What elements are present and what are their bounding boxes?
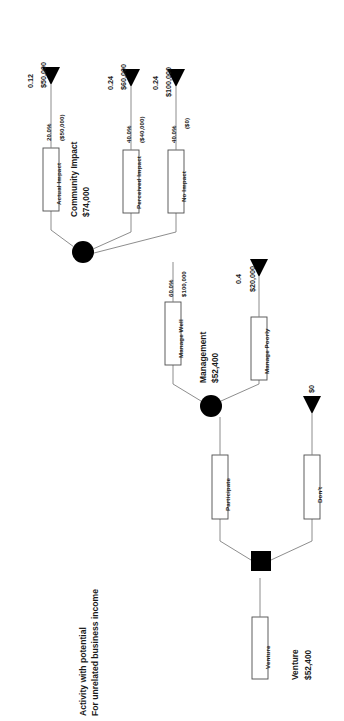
terminal-value-dont: $0 (308, 385, 316, 393)
terminal-value-actual-impact: $50,000 (40, 62, 48, 88)
terminal-value-perceived-impact: $60,000 (120, 64, 128, 90)
branch-label-venture: Venture (264, 645, 271, 669)
edge-decision-to-dont (271, 519, 312, 560)
branch-probability-perceived-impact: 40.0% (125, 125, 132, 143)
management-chance-node (200, 395, 222, 417)
node-value-venture: $52,400 (304, 650, 314, 680)
node-label-management: Management (199, 332, 209, 383)
terminal-value-manage-poorly: $20,000 (249, 266, 257, 292)
edge-community-to-no-impact (94, 213, 176, 253)
branch-cost-no-impact: ($0) (183, 118, 190, 129)
terminal-value-no-impact: $100,000 (165, 67, 173, 97)
branch-label-perceived-impact: Perceived Impact (135, 156, 142, 209)
tree-graphics (0, 0, 344, 721)
branch-probability-manage-well: 60.0% (167, 279, 174, 297)
branch-label-dont: Don't (316, 487, 323, 503)
branch-cost-perceived-impact: ($40,000) (138, 117, 145, 144)
terminal-probability-no-impact: 0.24 (152, 76, 160, 90)
diagram-title-line-2: For unrelated business income (90, 589, 100, 716)
edge-decision-to-participate (220, 519, 251, 560)
node-label-community-impact: Community Impact (70, 142, 80, 217)
edge-community-to-perceived-impact (93, 213, 131, 249)
branch-label-manage-poorly: Manage Poorly (263, 328, 270, 374)
branch-probability-actual-impact: 20.0% (45, 123, 52, 141)
community-impact-chance-node (72, 241, 94, 263)
terminal-probability-actual-impact: 0.12 (27, 74, 35, 88)
node-label-venture: Venture (291, 649, 301, 680)
terminal-probability-manage-poorly: 0.4 (235, 274, 243, 284)
terminal-triangle-dont (303, 396, 321, 414)
branch-cost-actual-impact: ($50,000) (58, 115, 65, 142)
decision-tree-diagram: Actual Impact 20.0% ($50,000) 0.12 $50,0… (0, 0, 344, 721)
diagram-title-line-1: Activity with potential (78, 627, 88, 716)
node-value-management: $52,400 (211, 353, 221, 383)
venture-decision-node (251, 551, 271, 571)
branch-label-actual-impact: Actual Impact (55, 163, 62, 205)
terminal-probability-perceived-impact: 0.24 (107, 76, 115, 90)
branch-label-participate: Participate (224, 478, 231, 511)
branch-label-manage-well: Manage Well (177, 319, 184, 358)
branch-label-no-impact: No Impact (180, 171, 187, 202)
edge-management-to-manage-well (173, 365, 201, 401)
branch-probability-no-impact: 40.0% (170, 125, 177, 143)
node-value-community-impact: $74,000 (82, 187, 92, 217)
edge-management-to-manage-poorly (221, 380, 259, 401)
branch-cost-manage-well: $100,000 (180, 271, 187, 297)
